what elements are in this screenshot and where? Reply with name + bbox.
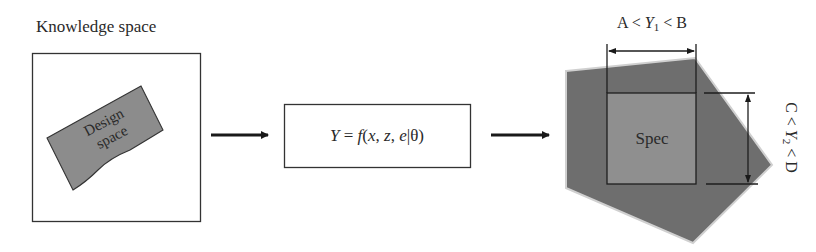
y2-upper: D: [783, 161, 800, 173]
y2-var: Y: [783, 130, 800, 139]
eq-close: ): [418, 126, 424, 146]
y2-constraint-label: C < Y2 < D: [781, 82, 800, 194]
y2-lt1: <: [783, 113, 800, 130]
y1-constraint-label: A < Y1 < B: [596, 14, 708, 33]
eq-sep2: ,: [391, 126, 400, 146]
knowledge-space-title: Knowledge space: [36, 17, 156, 37]
eq-e: e: [399, 126, 407, 146]
eq-x: x: [368, 126, 376, 146]
y1-var: Y: [645, 14, 654, 31]
y2-lower: C: [783, 102, 800, 113]
y1-lower: A: [617, 14, 628, 31]
eq-equals: =: [340, 126, 358, 146]
model-equation: Y = f(x, z, e|θ): [284, 104, 470, 167]
eq-theta: θ: [410, 126, 418, 146]
y2-lt2: <: [783, 144, 800, 161]
y1-lt2: <: [659, 14, 676, 31]
y1-upper: B: [676, 14, 687, 31]
y1-lt1: <: [628, 14, 645, 31]
eq-sep1: ,: [376, 126, 385, 146]
eq-lhs: Y: [330, 126, 339, 146]
eq-z: z: [384, 126, 391, 146]
spec-label: Spec: [607, 93, 697, 184]
